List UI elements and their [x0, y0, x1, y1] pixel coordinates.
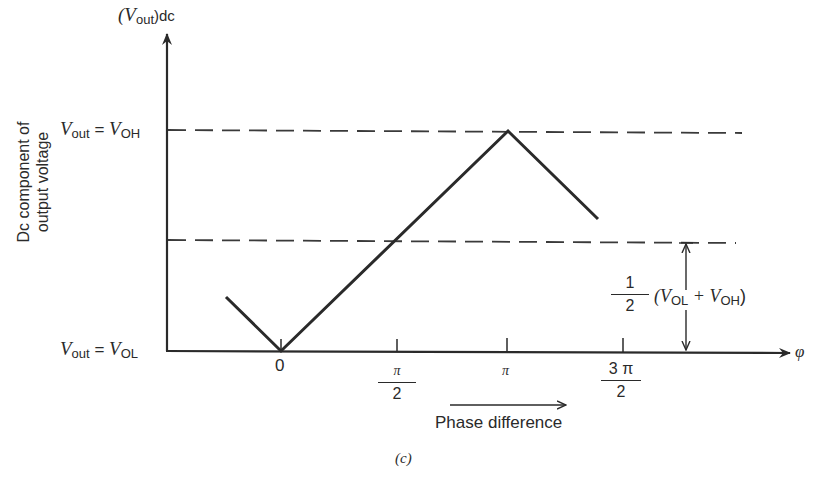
voh-level-label: Vout = VOH [60, 118, 140, 141]
y-axis-side-label-line1: Dc component of [14, 102, 33, 262]
tick-label-pi: π [502, 363, 509, 379]
half-level-fraction: 1 2 [611, 274, 649, 315]
y-axis-title: (Vout)dc [118, 4, 175, 27]
tick-label-0: 0 [275, 356, 284, 376]
phase-detector-plot [0, 0, 816, 477]
vol-level-label: Vout = VOL [60, 338, 138, 361]
y-axis-title-sub: out [136, 12, 154, 27]
y-axis-side-label: Dc component of output voltage [14, 102, 52, 262]
x-axis [166, 351, 790, 353]
y-axis-title-suffix: )dc [154, 7, 175, 24]
half-level-expression: (VOL + VOH) [654, 286, 746, 308]
y-axis-title-main: (V [118, 4, 136, 25]
voh-dashed-line [168, 130, 742, 133]
y-axis-side-label-line2: output voltage [33, 102, 52, 262]
half-level-dashed-line [168, 240, 736, 243]
tick-label-pi-half: π 2 [378, 362, 416, 403]
x-axis-symbol: φ [795, 342, 804, 362]
x-axis-direction-label: Phase difference [435, 413, 562, 433]
tick-label-3pi-half: 3 π 2 [601, 360, 641, 401]
figure-caption: (c) [395, 450, 412, 467]
